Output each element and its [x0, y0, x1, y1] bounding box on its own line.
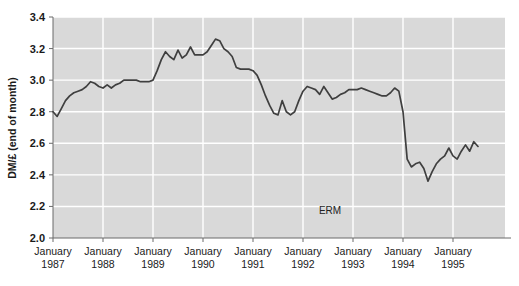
y-axis-tick-label: 2.4: [30, 169, 46, 181]
x-axis-tick-label-year: 1990: [191, 258, 215, 270]
dm-per-pound-line-chart: 3.43.23.02.82.62.42.22.0 January1987Janu…: [0, 0, 519, 286]
y-axis-tick-label: 2.2: [30, 200, 45, 212]
x-axis-tick-label-year: 1991: [241, 258, 265, 270]
x-axis-tick-label-year: 1987: [41, 258, 65, 270]
chart-annotations: ERM: [319, 205, 341, 216]
x-axis-tick-label-month: January: [434, 245, 472, 257]
x-axis-tick-label-month: January: [334, 245, 372, 257]
y-axis-tick-label: 3.0: [30, 74, 45, 86]
annotation-erm: ERM: [319, 205, 341, 216]
x-axis-tick-label-year: 1992: [291, 258, 315, 270]
y-axis-tick-label: 3.4: [30, 11, 46, 23]
y-axis-tick-label: 2.6: [30, 137, 45, 149]
x-axis-tick-label-year: 1989: [141, 258, 165, 270]
x-axis-tick-label-month: January: [134, 245, 172, 257]
x-axis-tick-label-month: January: [34, 245, 72, 257]
x-axis-tick-label-year: 1995: [441, 258, 465, 270]
y-axis-tick-label: 2.0: [30, 232, 45, 244]
x-axis-tick-label-month: January: [84, 245, 122, 257]
chart-container: 3.43.23.02.82.62.42.22.0 January1987Janu…: [0, 0, 519, 286]
x-axis-tick-label-year: 1993: [341, 258, 365, 270]
x-axis-tick-label-year: 1994: [391, 258, 415, 270]
x-axis-tick-label-month: January: [384, 245, 422, 257]
x-axis-tick-label-month: January: [284, 245, 322, 257]
y-axis-tick-label: 3.2: [30, 43, 45, 55]
x-axis-tick-label-month: January: [184, 245, 222, 257]
y-axis-tick-label: 2.8: [30, 106, 45, 118]
plot-area-background: [53, 17, 505, 238]
x-axis-tick-labels: January1987January1988January1989January…: [34, 245, 472, 270]
y-axis-title: DM/£ (end of month): [6, 77, 18, 178]
x-axis-tick-label-year: 1988: [91, 258, 115, 270]
x-axis-tick-label-month: January: [234, 245, 272, 257]
